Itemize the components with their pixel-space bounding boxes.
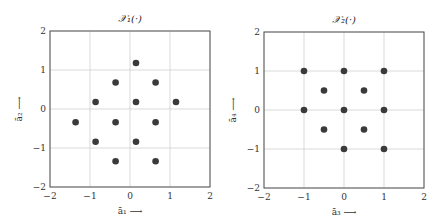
x-tick-label: −2 — [43, 191, 56, 201]
data-point — [321, 87, 328, 94]
data-point — [152, 158, 159, 165]
data-point — [381, 146, 388, 153]
x-tick-label: 1 — [167, 191, 173, 201]
x-axis-label: ā₃ ⟶ — [332, 207, 357, 217]
data-point — [92, 99, 99, 106]
data-point — [341, 107, 348, 114]
scatter-figure: −2−1012−2−1012𝒳₁(·)ā₁ ⟶ā₂ ⟶−2−1012−2−101… — [0, 0, 446, 222]
y-tick-label: 0 — [40, 104, 46, 114]
x-tick-label: 1 — [381, 192, 387, 202]
y-tick-label: 0 — [254, 105, 260, 115]
data-point — [361, 87, 368, 94]
data-point — [133, 138, 140, 145]
y-tick-label: 2 — [254, 27, 260, 37]
data-point — [321, 126, 328, 133]
y-axis-label: ā₄ ⟶ — [228, 98, 238, 123]
data-point — [133, 60, 140, 67]
data-point — [381, 107, 388, 114]
data-point — [341, 146, 348, 153]
data-point — [112, 119, 119, 126]
y-tick-label: −2 — [247, 183, 260, 193]
data-point — [72, 119, 79, 126]
y-tick-label: −1 — [247, 144, 260, 154]
x-axis-label: ā₁ ⟶ — [118, 206, 143, 216]
y-tick-label: −2 — [33, 182, 46, 192]
chart-title: 𝒳₂(·) — [332, 14, 356, 25]
y-tick-label: 1 — [40, 65, 46, 75]
data-point — [361, 126, 368, 133]
chart-title: 𝒳₁(·) — [118, 13, 142, 24]
x-tick-label: 2 — [421, 192, 427, 202]
data-point — [173, 99, 180, 106]
x-tick-label: 2 — [207, 191, 213, 201]
data-point — [381, 68, 388, 75]
y-tick-label: 2 — [40, 26, 46, 36]
x-tick-label: −1 — [297, 192, 310, 202]
data-point — [152, 79, 159, 86]
data-point — [152, 119, 159, 126]
data-point — [301, 68, 308, 75]
data-point — [341, 68, 348, 75]
data-point — [112, 158, 119, 165]
y-tick-label: 1 — [254, 66, 260, 76]
data-point — [112, 79, 119, 86]
x-tick-label: −2 — [257, 192, 270, 202]
x-tick-label: 0 — [127, 191, 133, 201]
data-point — [301, 107, 308, 114]
y-tick-label: −1 — [33, 143, 46, 153]
y-axis-label: ā₂ ⟶ — [14, 97, 24, 122]
x-tick-label: −1 — [83, 191, 96, 201]
data-point — [133, 99, 140, 106]
x-tick-label: 0 — [341, 192, 347, 202]
data-point — [92, 138, 99, 145]
